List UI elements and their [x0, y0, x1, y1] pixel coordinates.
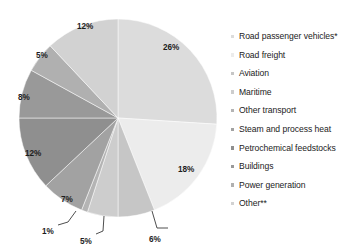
- legend-item[interactable]: Other**: [231, 194, 362, 213]
- slice-percentage-label: 5%: [36, 52, 48, 60]
- slice-percentage-label: 18%: [178, 166, 194, 174]
- legend-item-label: Road passenger vehicles*: [239, 32, 338, 41]
- callout-line-other-transport: [58, 211, 76, 225]
- slice-percentage-label: 26%: [163, 44, 179, 52]
- legend-swatch-icon: [231, 90, 234, 93]
- callout-line-aviation: [152, 211, 168, 228]
- slice-percentage-label: 8%: [18, 94, 30, 102]
- legend-item[interactable]: Petrochemical feedstocks: [231, 139, 362, 158]
- legend-swatch-icon: [231, 72, 234, 75]
- legend-item[interactable]: Road freight: [231, 46, 362, 65]
- legend-item-label: Buildings: [239, 162, 273, 171]
- chart-plot-area: 26%18%7%12%8%5%12% 6%5%1%: [0, 0, 236, 252]
- legend-item[interactable]: Maritime: [231, 83, 362, 102]
- legend-swatch-icon: [231, 165, 234, 168]
- legend-swatch-icon: [231, 128, 234, 131]
- legend-item-label: Power generation: [239, 181, 306, 190]
- callout-percentage-label: 6%: [149, 236, 161, 244]
- pie-slice: [118, 19, 217, 124]
- pie-slices-group: [19, 19, 217, 217]
- legend-swatch-icon: [231, 109, 234, 112]
- legend-item-label: Petrochemical feedstocks: [239, 144, 336, 153]
- legend-swatch-icon: [231, 183, 234, 186]
- legend-swatch-icon: [231, 202, 234, 205]
- legend-item-label: Steam and process heat: [239, 125, 331, 134]
- legend-item[interactable]: Aviation: [231, 64, 362, 83]
- legend-item[interactable]: Other transport: [231, 101, 362, 120]
- callout-line-maritime: [96, 216, 104, 234]
- chart-legend: Road passenger vehicles*Road freightAvia…: [231, 27, 362, 213]
- slice-percentage-label: 12%: [77, 23, 93, 31]
- legend-item-label: Other transport: [239, 106, 296, 115]
- pie-chart-svg: [0, 0, 236, 252]
- pie-chart-figure: 26%18%7%12%8%5%12% 6%5%1% Road passenger…: [0, 0, 362, 252]
- legend-item-label: Maritime: [239, 88, 272, 97]
- legend-item-label: Road freight: [239, 51, 285, 60]
- slice-percentage-label: 12%: [25, 150, 41, 158]
- legend-item[interactable]: Power generation: [231, 176, 362, 195]
- slice-percentage-label: 7%: [61, 196, 73, 204]
- callout-percentage-label: 5%: [80, 238, 92, 246]
- legend-item[interactable]: Steam and process heat: [231, 120, 362, 139]
- callout-percentage-label: 1%: [42, 228, 54, 236]
- legend-item[interactable]: Road passenger vehicles*: [231, 27, 362, 46]
- legend-item-label: Aviation: [239, 69, 269, 78]
- legend-swatch-icon: [231, 53, 234, 56]
- legend-swatch-icon: [231, 146, 234, 149]
- legend-swatch-icon: [231, 35, 234, 38]
- legend-item-label: Other**: [239, 199, 267, 208]
- legend-item[interactable]: Buildings: [231, 157, 362, 176]
